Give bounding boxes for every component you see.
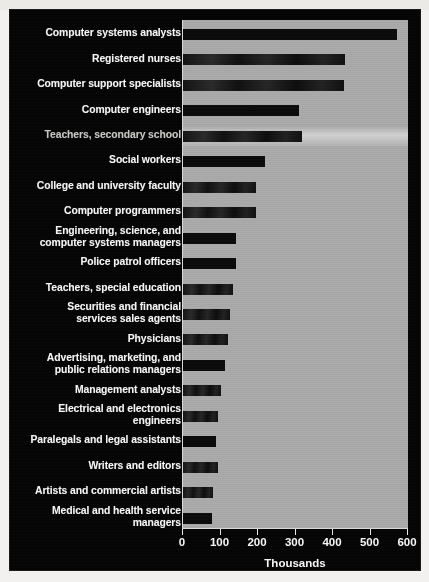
- bar: [183, 131, 302, 142]
- category-label: Physicians: [11, 333, 181, 345]
- category-label-column: Computer systems analystsRegistered nurs…: [11, 20, 181, 528]
- bar: [183, 54, 345, 65]
- x-axis-tick-label: 100: [210, 536, 229, 548]
- x-axis-tick: [295, 529, 296, 535]
- category-label: Electrical and electronicsengineers: [11, 403, 181, 426]
- x-axis-tick: [332, 529, 333, 535]
- category-label-line: Electrical and electronics: [11, 403, 181, 415]
- bar: [183, 360, 225, 371]
- category-label-line: Computer engineers: [11, 104, 181, 116]
- bar: [183, 105, 299, 116]
- category-label-line: Computer programmers: [11, 205, 181, 217]
- x-axis-tick-label: 500: [360, 536, 379, 548]
- bar: [183, 80, 344, 91]
- category-label: Police patrol officers: [11, 256, 181, 268]
- x-axis-tick: [370, 529, 371, 535]
- bar: [183, 513, 212, 524]
- category-label-line: College and university faculty: [11, 180, 181, 192]
- category-label: Paralegals and legal assistants: [11, 434, 181, 446]
- x-axis-tick-label: 600: [397, 536, 416, 548]
- category-label-line: engineers: [11, 415, 181, 427]
- x-axis-tick-label: 300: [285, 536, 304, 548]
- x-axis-tick: [257, 529, 258, 535]
- x-axis-tick-label: 400: [322, 536, 341, 548]
- category-label-line: public relations managers: [11, 364, 181, 376]
- bar: [183, 258, 236, 269]
- plot-area: [182, 20, 408, 528]
- bar: [183, 462, 218, 473]
- category-label: Computer support specialists: [11, 78, 181, 90]
- x-axis-tick: [407, 529, 408, 535]
- bar: [183, 284, 233, 295]
- bar: [183, 156, 265, 167]
- x-axis-title: Thousands: [182, 557, 408, 569]
- category-label-line: Social workers: [11, 154, 181, 166]
- category-label: Social workers: [11, 154, 181, 166]
- bar: [183, 436, 216, 447]
- category-label: Medical and health servicemanagers: [11, 505, 181, 528]
- category-label: Advertising, marketing, andpublic relati…: [11, 352, 181, 375]
- bar: [183, 309, 230, 320]
- bar: [183, 29, 397, 40]
- bar: [183, 233, 236, 244]
- bar: [183, 385, 221, 396]
- category-label-line: Teachers, special education: [11, 282, 181, 294]
- category-label: Writers and editors: [11, 460, 181, 472]
- category-label-line: Advertising, marketing, and: [11, 352, 181, 364]
- category-label-line: Teachers, secondary school: [11, 129, 181, 141]
- category-label-line: Management analysts: [11, 384, 181, 396]
- category-label-line: managers: [11, 517, 181, 529]
- category-label-line: Computer support specialists: [11, 78, 181, 90]
- category-label-line: Artists and commercial artists: [11, 485, 181, 497]
- x-axis-tick-label: 0: [179, 536, 185, 548]
- category-label-line: Securities and financial: [11, 301, 181, 313]
- category-label: Teachers, special education: [11, 282, 181, 294]
- category-label-line: Medical and health service: [11, 505, 181, 517]
- category-label: Registered nurses: [11, 53, 181, 65]
- category-label-line: Computer systems analysts: [11, 27, 181, 39]
- category-label: Securities and financialservices sales a…: [11, 301, 181, 324]
- category-label: Teachers, secondary school: [11, 129, 181, 141]
- category-label-line: Writers and editors: [11, 460, 181, 472]
- category-label-line: Registered nurses: [11, 53, 181, 65]
- category-label: Computer programmers: [11, 205, 181, 217]
- category-label-line: Paralegals and legal assistants: [11, 434, 181, 446]
- chart-figure: Computer systems analystsRegistered nurs…: [9, 9, 421, 571]
- bar: [183, 334, 228, 345]
- category-label-line: computer systems managers: [11, 237, 181, 249]
- category-label-line: services sales agents: [11, 313, 181, 325]
- x-axis-tick-label: 200: [247, 536, 266, 548]
- category-label: College and university faculty: [11, 180, 181, 192]
- category-label: Computer engineers: [11, 104, 181, 116]
- bar: [183, 487, 213, 498]
- category-label-line: Police patrol officers: [11, 256, 181, 268]
- chart-page: Computer systems analystsRegistered nurs…: [0, 0, 429, 582]
- bar: [183, 182, 256, 193]
- x-axis-tick: [220, 529, 221, 535]
- category-label-line: Engineering, science, and: [11, 225, 181, 237]
- category-label-line: Physicians: [11, 333, 181, 345]
- category-label: Computer systems analysts: [11, 27, 181, 39]
- category-label: Artists and commercial artists: [11, 485, 181, 497]
- bar: [183, 207, 256, 218]
- category-label: Management analysts: [11, 384, 181, 396]
- bar: [183, 411, 218, 422]
- x-axis: 0100200300400500600: [182, 528, 408, 536]
- category-label: Engineering, science, andcomputer system…: [11, 225, 181, 248]
- x-axis-tick: [182, 529, 183, 535]
